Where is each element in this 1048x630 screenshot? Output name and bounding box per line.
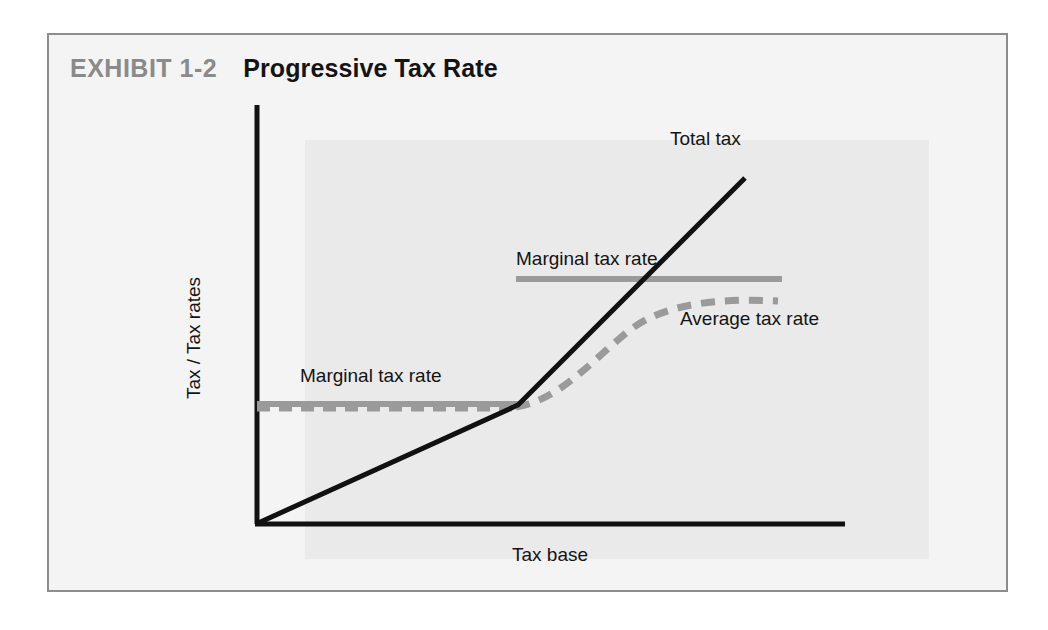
plot-background-region xyxy=(305,140,929,559)
y-axis-label: Tax / Tax rates xyxy=(183,238,205,438)
x-axis-label: Tax base xyxy=(450,544,650,566)
exhibit-number: EXHIBIT 1-2 xyxy=(70,54,217,83)
series-label-average-tax-rate: Average tax rate xyxy=(680,308,819,330)
series-label-total-tax: Total tax xyxy=(670,128,741,150)
exhibit-header: EXHIBIT 1-2 Progressive Tax Rate xyxy=(70,54,498,83)
page-title: Progressive Tax Rate xyxy=(243,54,497,83)
series-label-marginal-tax-rate-high: Marginal tax rate xyxy=(516,248,658,270)
series-label-marginal-tax-rate-low: Marginal tax rate xyxy=(300,365,442,387)
